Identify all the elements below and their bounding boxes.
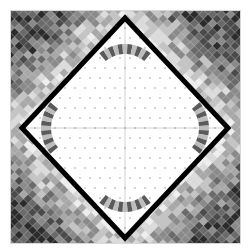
pattern-canvas bbox=[0, 0, 249, 252]
diamond-pattern-graphic bbox=[0, 0, 249, 252]
